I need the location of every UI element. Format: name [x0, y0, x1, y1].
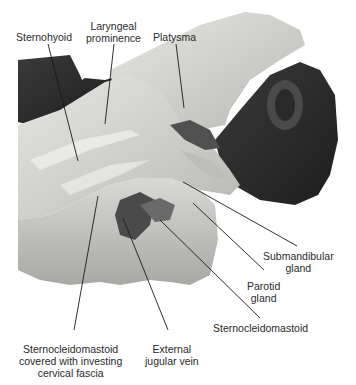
- label-text: gland: [263, 262, 334, 274]
- label-text: prominence: [86, 32, 141, 44]
- leader-sternohyoid: [48, 44, 78, 161]
- leader-sternocleidomastoid: [160, 220, 260, 318]
- label-platysma: Platysma: [153, 31, 196, 43]
- leader-external-jugular: [123, 218, 168, 330]
- label-sternocleidomastoid-covered: Sternocleidomastoid covered with investi…: [19, 343, 122, 379]
- label-external-jugular-vein: External jugular vein: [145, 343, 199, 367]
- label-text: Parotid: [247, 280, 280, 292]
- label-text: Laryngeal: [86, 20, 141, 32]
- label-text: Sternocleidomastoid: [19, 343, 122, 355]
- label-sternohyoid: Sternohyoid: [16, 31, 72, 43]
- label-parotid-gland: Parotid gland: [247, 280, 280, 304]
- label-sternocleidomastoid: Sternocleidomastoid: [213, 322, 308, 334]
- label-text: gland: [247, 292, 280, 304]
- label-text: Submandibular: [263, 250, 334, 262]
- label-text: Sternohyoid: [16, 31, 72, 43]
- label-submandibular-gland: Submandibular gland: [263, 250, 334, 274]
- label-text: External: [145, 343, 199, 355]
- leader-scm-covered: [74, 196, 98, 330]
- label-text: Platysma: [153, 31, 196, 43]
- label-text: jugular vein: [145, 355, 199, 367]
- label-laryngeal-prominence: Laryngeal prominence: [86, 20, 141, 44]
- label-text: cervical fascia: [19, 367, 122, 379]
- label-text: covered with investing: [19, 355, 122, 367]
- label-text: Sternocleidomastoid: [213, 322, 308, 334]
- anatomy-figure: Sternohyoid Laryngeal prominence Platysm…: [0, 0, 356, 385]
- leader-platysma: [176, 44, 184, 108]
- leader-laryngeal-prominence: [105, 44, 114, 124]
- leader-parotid-gland: [193, 203, 264, 270]
- leader-submandibular-gland: [183, 182, 297, 246]
